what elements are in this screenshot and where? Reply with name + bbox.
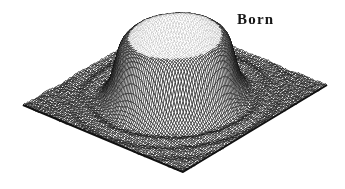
born-reconstruction-figure: Born: [0, 0, 345, 189]
wireframe-surface-canvas: [0, 0, 345, 189]
chart-label-born: Born: [237, 11, 274, 28]
